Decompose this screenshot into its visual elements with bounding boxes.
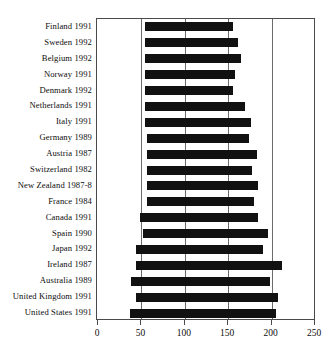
- y-axis-label: Ireland 1987: [0, 259, 92, 269]
- bar: [130, 309, 276, 318]
- bar: [147, 150, 257, 159]
- x-axis-tick: [271, 320, 272, 325]
- y-axis-label: Australia 1989: [0, 275, 92, 285]
- bar: [140, 213, 258, 222]
- x-axis-tick-label: 150: [207, 327, 247, 340]
- bar: [147, 197, 255, 206]
- x-axis-tick: [97, 320, 98, 325]
- bar: [136, 293, 277, 302]
- x-axis-tick: [227, 320, 228, 325]
- y-axis-label: New Zealand 1987-8: [0, 180, 92, 190]
- bar: [145, 38, 238, 47]
- bar: [145, 118, 251, 127]
- y-axis-label: Sweden 1992: [0, 37, 92, 47]
- x-axis-tick-label: 200: [251, 327, 291, 340]
- x-axis-tick-labels: 050100150200250: [96, 327, 315, 343]
- x-axis-tick: [314, 320, 315, 325]
- bar: [131, 277, 270, 286]
- y-axis-label: Switzerland 1982: [0, 164, 92, 174]
- y-axis-label: France 1984: [0, 196, 92, 206]
- bar: [145, 86, 233, 95]
- x-axis-tick-label: 250: [294, 327, 326, 340]
- bar: [136, 245, 263, 254]
- y-axis-label: Norway 1991: [0, 69, 92, 79]
- y-axis-label: Germany 1989: [0, 132, 92, 142]
- bar: [145, 22, 233, 31]
- x-axis-tick-label: 50: [120, 327, 160, 340]
- y-axis-label: Denmark 1992: [0, 85, 92, 95]
- chart-title: [8, 0, 318, 4]
- y-axis-category-labels: Finland 1991Sweden 1992Belgium 1992Norwa…: [0, 18, 96, 320]
- x-axis-tick-label: 100: [164, 327, 204, 340]
- x-axis-ticks: [96, 320, 315, 326]
- y-axis-label: Austria 1987: [0, 148, 92, 158]
- x-axis-tick: [184, 320, 185, 325]
- y-axis-label: Italy 1991: [0, 116, 92, 126]
- gridline: [141, 19, 142, 319]
- y-axis-label: Spain 1990: [0, 228, 92, 238]
- x-axis-tick-label: 0: [77, 327, 117, 340]
- y-axis-label: Belgium 1992: [0, 53, 92, 63]
- y-axis-label: Finland 1991: [0, 21, 92, 31]
- y-axis-label: Canada 1991: [0, 212, 92, 222]
- bar: [145, 54, 241, 63]
- bar: [136, 261, 282, 270]
- bar: [145, 70, 235, 79]
- bar: [147, 134, 249, 143]
- bar: [145, 102, 245, 111]
- y-axis-label: Netherlands 1991: [0, 100, 92, 110]
- bar: [143, 229, 268, 238]
- x-axis-tick: [140, 320, 141, 325]
- plot-area: [96, 18, 315, 320]
- bar: [147, 181, 258, 190]
- y-axis-label: United States 1991: [0, 307, 92, 317]
- bar: [147, 166, 252, 175]
- y-axis-label: United Kingdom 1991: [0, 291, 92, 301]
- y-axis-label: Japan 1992: [0, 243, 92, 253]
- bar-chart: Finland 1991Sweden 1992Belgium 1992Norwa…: [0, 0, 326, 361]
- gridline: [272, 19, 273, 319]
